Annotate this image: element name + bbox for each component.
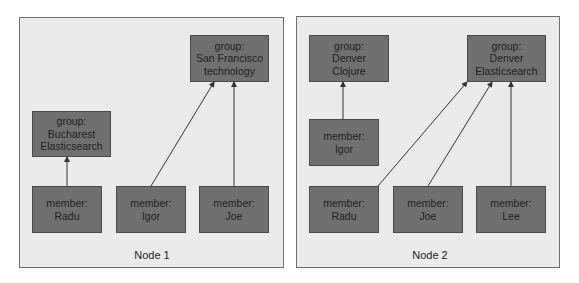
group-name-line-1: Denver bbox=[332, 52, 366, 65]
member-joe: member: Joe bbox=[199, 186, 269, 233]
member-prefix: member: bbox=[407, 197, 448, 210]
member-lee: member: Lee bbox=[476, 186, 546, 233]
member-name: Igor bbox=[142, 210, 160, 223]
group-san-francisco-technology: group: San Francisco technology bbox=[190, 35, 269, 82]
group-prefix: group: bbox=[334, 40, 364, 53]
node-1-label: Node 1 bbox=[134, 249, 169, 261]
group-name-line-2: technology bbox=[204, 65, 255, 78]
group-denver-elasticsearch: group: Denver Elasticsearch bbox=[467, 35, 546, 82]
group-prefix: group: bbox=[215, 40, 245, 53]
member-prefix: member: bbox=[323, 130, 364, 143]
member-name: Radu bbox=[54, 210, 79, 223]
group-prefix: group: bbox=[57, 115, 87, 128]
member-name: Joe bbox=[420, 210, 437, 223]
group-name-line-2: Elasticsearch bbox=[40, 140, 102, 153]
member-radu-node2: member: Radu bbox=[309, 186, 379, 233]
group-name-line-1: Denver bbox=[490, 52, 524, 65]
group-prefix: group: bbox=[492, 40, 522, 53]
member-name: Joe bbox=[226, 210, 243, 223]
group-name-line-2: Clojure bbox=[332, 65, 365, 78]
node-2-label: Node 2 bbox=[412, 249, 447, 261]
group-name-line-1: Bucharest bbox=[48, 128, 95, 141]
group-denver-clojure: group: Denver Clojure bbox=[309, 35, 389, 82]
member-name: Radu bbox=[331, 210, 356, 223]
group-name-line-1: San Francisco bbox=[196, 52, 263, 65]
member-prefix: member: bbox=[130, 197, 171, 210]
member-name: Igor bbox=[335, 143, 353, 156]
member-prefix: member: bbox=[490, 197, 531, 210]
member-igor: member: Igor bbox=[116, 186, 186, 233]
member-prefix: member: bbox=[46, 197, 87, 210]
member-name: Lee bbox=[502, 210, 520, 223]
member-joe-node2: member: Joe bbox=[393, 186, 463, 233]
member-prefix: member: bbox=[213, 197, 254, 210]
member-igor-node2: member: Igor bbox=[309, 119, 379, 166]
member-radu: member: Radu bbox=[32, 186, 102, 233]
member-prefix: member: bbox=[323, 197, 364, 210]
group-name-line-2: Elasticsearch bbox=[475, 65, 537, 78]
group-bucharest-elasticsearch: group: Bucharest Elasticsearch bbox=[32, 111, 111, 157]
